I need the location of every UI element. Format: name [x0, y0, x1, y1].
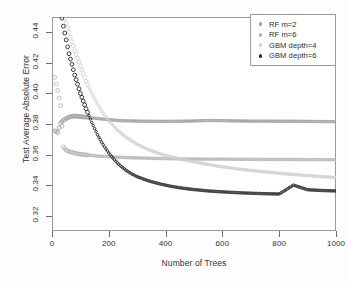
legend-item[interactable]: GBM depth=6: [255, 51, 332, 62]
y-axis-tick-label: 0.32: [0, 210, 44, 219]
y-axis-tick-label: 0.42: [0, 57, 44, 66]
x-axis-tick: [109, 231, 110, 237]
x-axis-tick-label: 400: [146, 239, 186, 248]
legend-circle-icon: [255, 22, 266, 26]
legend: RF m=2RF m=6GBM depth=4GBM depth=6: [250, 14, 336, 66]
x-axis-tick-label: 800: [259, 239, 299, 248]
x-axis-tick-label: 200: [89, 239, 129, 248]
y-axis-tick-label: 0.44: [0, 26, 44, 35]
legend-item-label: RF m=2: [266, 20, 297, 29]
y-axis-title: Test Average Absolute Error: [21, 19, 31, 199]
y-axis-tick-label: 0.34: [0, 179, 44, 188]
x-axis-title: Number of Trees: [52, 258, 336, 268]
legend-circle-icon: [255, 33, 266, 37]
x-axis-tick: [166, 231, 167, 237]
x-axis-tick: [52, 231, 53, 237]
y-axis-tick-label: 0.38: [0, 118, 44, 127]
y-axis-tick-label: 0.40: [0, 87, 44, 96]
x-axis-tick-label: 0: [32, 239, 72, 248]
legend-item[interactable]: RF m=6: [255, 30, 332, 41]
x-axis-tick: [279, 231, 280, 237]
legend-item-label: GBM depth=4: [266, 41, 317, 50]
legend-item[interactable]: RF m=2: [255, 19, 332, 30]
legend-item-label: GBM depth=6: [266, 51, 317, 60]
x-axis-tick: [222, 231, 223, 237]
x-axis-tick-label: 1000: [316, 239, 349, 248]
legend-circle-icon: [255, 54, 266, 58]
x-axis-tick-label: 600: [202, 239, 242, 248]
legend-item[interactable]: GBM depth=4: [255, 40, 332, 51]
legend-circle-icon: [255, 43, 266, 47]
chart-figure: Test Average Absolute Error Number of Tr…: [0, 0, 349, 283]
y-axis-tick-label: 0.36: [0, 149, 44, 158]
x-axis-tick: [336, 231, 337, 237]
legend-item-label: RF m=6: [266, 30, 297, 39]
